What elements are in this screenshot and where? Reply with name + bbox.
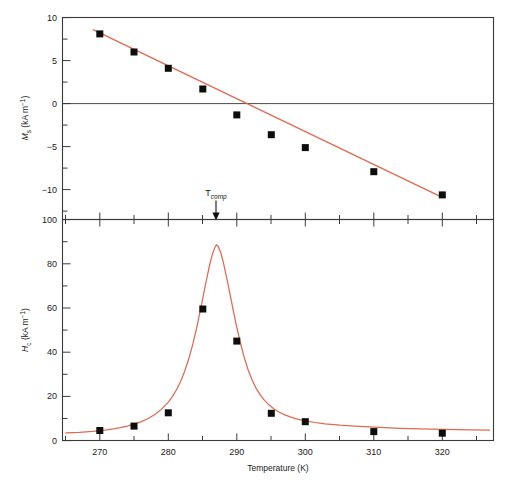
xtick-300: 300 xyxy=(298,447,313,457)
bottom-data-markers xyxy=(96,306,446,437)
bottom-ytick-0: 0 xyxy=(52,436,57,446)
top-ytick-neg10: −10 xyxy=(42,185,57,195)
bottom-y-ticks xyxy=(63,220,71,441)
bottom-point-320 xyxy=(439,430,446,437)
bottom-ytick-20: 20 xyxy=(47,391,57,401)
tcomp-annotation: Tcomp xyxy=(205,188,227,221)
top-point-275 xyxy=(131,49,138,56)
xtick-320: 320 xyxy=(435,447,450,457)
bottom-x-ticks-top xyxy=(66,220,477,227)
xtick-310: 310 xyxy=(366,447,381,457)
top-point-290 xyxy=(233,111,240,118)
top-y-ticks xyxy=(63,18,71,212)
bottom-point-280 xyxy=(165,409,172,416)
top-ytick-0: 0 xyxy=(52,99,57,109)
chart-svg: 10 5 0 −5 −10 xyxy=(0,0,508,484)
figure-container: 10 5 0 −5 −10 xyxy=(0,0,508,484)
top-point-285 xyxy=(199,86,206,93)
top-ytick-10: 10 xyxy=(47,13,57,23)
top-point-310 xyxy=(370,168,377,175)
top-x-ticks xyxy=(66,213,477,220)
bottom-fit-curve xyxy=(66,245,491,433)
top-panel: 10 5 0 −5 −10 xyxy=(19,13,494,220)
top-fit-line xyxy=(93,30,442,198)
top-ytick-5: 5 xyxy=(52,56,57,66)
tcomp-label: Tcomp xyxy=(205,188,227,201)
top-data-markers xyxy=(96,30,446,198)
xtick-270: 270 xyxy=(92,447,107,457)
bottom-panel-frame xyxy=(63,220,494,441)
bottom-point-275 xyxy=(131,423,138,430)
svg-text:Ms (kA m−1): Ms (kA m−1) xyxy=(19,95,32,140)
top-ylabel: Ms (kA m−1) xyxy=(19,95,32,140)
bottom-panel: 100 80 60 40 20 0 xyxy=(19,215,494,473)
top-point-280 xyxy=(165,65,172,72)
bottom-ytick-40: 40 xyxy=(47,347,57,357)
bottom-ytick-80: 80 xyxy=(47,259,57,269)
bottom-point-290 xyxy=(233,338,240,345)
bottom-ylabel: Hc (kA m−1) xyxy=(19,308,32,352)
bottom-x-ticks xyxy=(66,434,477,441)
top-point-320 xyxy=(439,191,446,198)
bottom-ytick-100: 100 xyxy=(42,215,57,225)
bottom-point-300 xyxy=(302,418,309,425)
xtick-290: 290 xyxy=(229,447,244,457)
bottom-point-285 xyxy=(199,306,206,313)
bottom-point-270 xyxy=(96,427,103,434)
bottom-point-310 xyxy=(370,428,377,435)
xaxis-label: Temperature (K) xyxy=(247,463,309,473)
xtick-280: 280 xyxy=(161,447,176,457)
top-point-300 xyxy=(302,144,309,151)
bottom-point-295 xyxy=(268,410,275,417)
top-point-270 xyxy=(96,30,103,37)
bottom-ytick-60: 60 xyxy=(47,303,57,313)
top-point-295 xyxy=(268,131,275,138)
top-ytick-neg5: −5 xyxy=(47,142,57,152)
svg-text:Hc (kA m−1): Hc (kA m−1) xyxy=(19,308,32,352)
